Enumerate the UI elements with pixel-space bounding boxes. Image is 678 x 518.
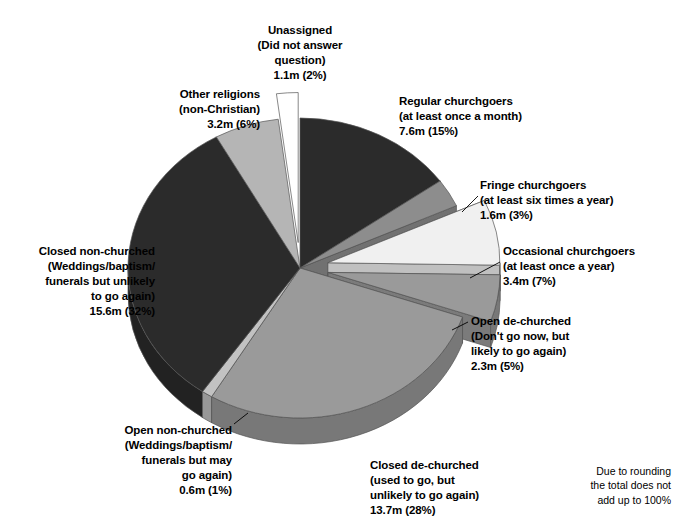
rounding-footnote: Due to rounding the total does not add u…	[546, 450, 671, 507]
callout-open-non-churched: Open non-churched (Weddings/baptism/ fun…	[80, 408, 232, 498]
callout-fringe-churchgoers-text: Fringe churchgoers (at least six times a…	[480, 179, 613, 221]
callout-closed-de-churched-text: Closed de-churched (used to go, but unli…	[370, 459, 479, 516]
callout-open-de-churched-text: Open de-churched (Don't go now, but like…	[471, 315, 571, 372]
callout-occasional-churchgoers: Occasional churchgoers (at least once a …	[503, 229, 678, 289]
callout-open-de-churched: Open de-churched (Don't go now, but like…	[471, 299, 651, 374]
callout-open-non-churched-text: Open non-churched (Weddings/baptism/ fun…	[124, 424, 232, 496]
callout-other-religions: Other religions (non-Christian) 3.2m (6%…	[98, 72, 260, 132]
callout-occasional-churchgoers-text: Occasional churchgoers (at least once a …	[503, 245, 635, 287]
callout-regular-churchgoers-text: Regular churchgoers (at least once a mon…	[399, 95, 522, 137]
callout-fringe-churchgoers: Fringe churchgoers (at least six times a…	[480, 163, 676, 223]
rounding-footnote-text: Due to rounding the total does not add u…	[590, 465, 671, 505]
callout-regular-churchgoers: Regular churchgoers (at least once a mon…	[399, 79, 589, 139]
callout-unassigned-text: Unassigned (Did not answer question) 1.1…	[258, 24, 343, 81]
callout-other-religions-text: Other religions (non-Christian) 3.2m (6%…	[179, 88, 260, 130]
callout-closed-non-churched-text: Closed non-churched (Weddings/baptism/ f…	[39, 245, 155, 317]
callout-closed-de-churched: Closed de-churched (used to go, but unli…	[370, 443, 550, 518]
callout-closed-non-churched: Closed non-churched (Weddings/baptism/ f…	[7, 229, 155, 319]
